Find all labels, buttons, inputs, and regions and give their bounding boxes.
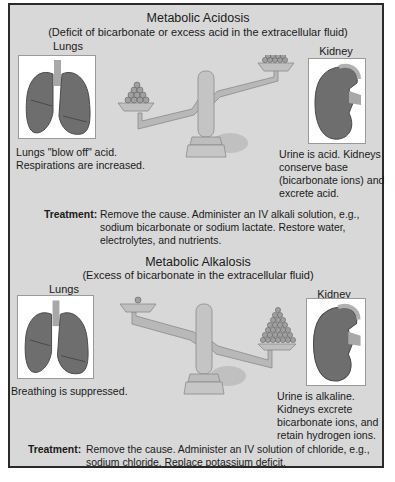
acidosis-kidney-image [308,58,366,144]
acidosis-lungs-label: Lungs [38,40,98,52]
single-ion [135,297,141,303]
diagram-panel: Metabolic Acidosis (Deficit of bicarbona… [8,3,384,468]
alkalosis-lungs-image [17,295,94,379]
acidosis-kidney-label: Kidney [306,45,366,57]
kidney-icon [309,59,365,143]
alkalosis-subtitle: (Excess of bicarbonate in the extracellu… [10,269,386,281]
acidosis-title: Metabolic Acidosis [10,11,386,25]
small-ion-pile [125,82,149,103]
large-ion-pile [260,307,295,342]
treatment-label: Treatment: [44,208,97,221]
acidosis-lungs-description: Lungs "blow off" acid. Respirations are … [16,146,166,172]
alkalosis-title: Metabolic Alkalosis [10,255,386,269]
alkalosis-lungs-label: Lungs [34,283,94,295]
acidosis-kidney-description: Urine is acid. Kidneys conserve base (bi… [279,148,389,200]
alkalosis-lungs-description: Breathing is suppressed. [11,385,161,398]
lungs-icon [18,296,93,378]
medium-ion-pile [262,55,287,63]
alkalosis-kidney-image [306,298,366,386]
acidosis-subtitle: (Deficit of bicarbonate or excess acid i… [10,26,386,38]
alkalosis-kidney-description: Urine is alkaline. Kidneys excrete bicar… [277,390,389,442]
kidney-icon [307,299,365,385]
lungs-icon [19,56,95,138]
treatment-label: Treatment: [28,443,81,456]
acidosis-lungs-image [18,55,96,139]
